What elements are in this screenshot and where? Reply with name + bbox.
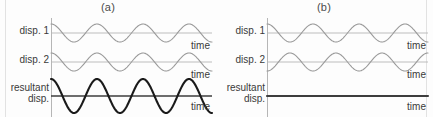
panel-b-label-resultant: resultant disp. (201, 82, 265, 104)
panel-b-wave-disp1-svg (267, 18, 428, 48)
panel-a-wave-disp2: time (51, 47, 212, 77)
panel-b-row-resultant: resultant disp. time (216, 76, 432, 116)
panel-b-row-disp2: disp. 2 time (216, 47, 432, 77)
panel-a-wave-resultant: time (51, 76, 212, 116)
panel-a-label-disp2: disp. 2 (0, 54, 49, 65)
panel-b-wave-resultant: time (267, 76, 428, 116)
panel-a-label-disp1: disp. 1 (0, 25, 49, 36)
panel-a-wave-disp1-svg (51, 18, 212, 48)
panel-b-caption: (b) (216, 1, 432, 13)
panel-b-wave-resultant-svg (267, 76, 428, 116)
panel-a-wave-disp2-svg (51, 47, 212, 77)
panel-b-wave-disp2-svg (267, 47, 428, 77)
panel-b-wave-disp1: time (267, 18, 428, 48)
panel-b-label-disp2: disp. 2 (203, 54, 265, 65)
interference-figure: (a) disp. 1 time disp. 2 (0, 0, 433, 117)
panel-b-row-disp1: disp. 1 time (216, 18, 432, 48)
panel-a-row-disp1: disp. 1 time (0, 18, 216, 48)
panel-a-label-resultant: resultant disp. (0, 82, 49, 104)
panel-b-wave-disp2: time (267, 47, 428, 77)
panel-a: (a) disp. 1 time disp. 2 (0, 0, 216, 117)
panel-a-wave-disp1: time (51, 18, 212, 48)
panel-a-plot-stack: disp. 1 time disp. 2 time (0, 18, 216, 117)
panel-b-label-disp1: disp. 1 (203, 25, 265, 36)
panel-a-caption: (a) (0, 1, 216, 13)
panel-b: (b) disp. 1 time disp. 2 (216, 0, 432, 117)
panel-a-wave-resultant-svg (51, 76, 212, 116)
panel-a-row-disp2: disp. 2 time (0, 47, 216, 77)
panel-b-plot-stack: disp. 1 time disp. 2 time (216, 18, 432, 117)
panel-b-time-label-resultant: time (406, 101, 426, 112)
panel-a-row-resultant: resultant disp. time (0, 76, 216, 116)
